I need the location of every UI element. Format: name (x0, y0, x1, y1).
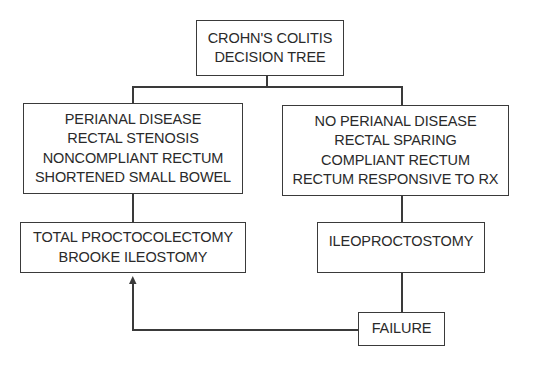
node-left-criteria: PERIANAL DISEASE RECTAL STENOSIS NONCOMP… (23, 103, 243, 194)
criteria-line: COMPLIANT RECTUM (321, 151, 470, 171)
criteria-line: SHORTENED SMALL BOWEL (35, 168, 231, 188)
criteria-line: RECTAL SPARING (334, 131, 456, 151)
criteria-line: PERIANAL DISEASE (65, 110, 201, 130)
node-right-treatment: ILEOPROCTOSTOMY (317, 222, 485, 273)
treatment-line: ILEOPROCTOSTOMY (329, 232, 474, 252)
node-root-line-1: CROHN'S COLITIS (208, 29, 333, 49)
criteria-line: NONCOMPLIANT RECTUM (43, 149, 224, 169)
criteria-line: RECTUM RESPONSIVE TO RX (293, 170, 499, 190)
criteria-line: RECTAL STENOSIS (67, 129, 198, 149)
arrow-up-icon (129, 276, 137, 284)
node-root-line-2: DECISION TREE (214, 48, 325, 68)
node-failure: FAILURE (358, 312, 445, 346)
node-root: CROHN'S COLITIS DECISION TREE (196, 20, 344, 76)
failure-label: FAILURE (372, 319, 432, 339)
treatment-line: TOTAL PROCTOCOLECTOMY (33, 228, 233, 248)
node-right-criteria: NO PERIANAL DISEASE RECTAL SPARING COMPL… (282, 105, 509, 196)
treatment-line: BROOKE ILEOSTOMY (59, 248, 208, 268)
criteria-line: NO PERIANAL DISEASE (315, 112, 477, 132)
node-left-treatment: TOTAL PROCTOCOLECTOMY BROOKE ILEOSTOMY (20, 222, 246, 273)
